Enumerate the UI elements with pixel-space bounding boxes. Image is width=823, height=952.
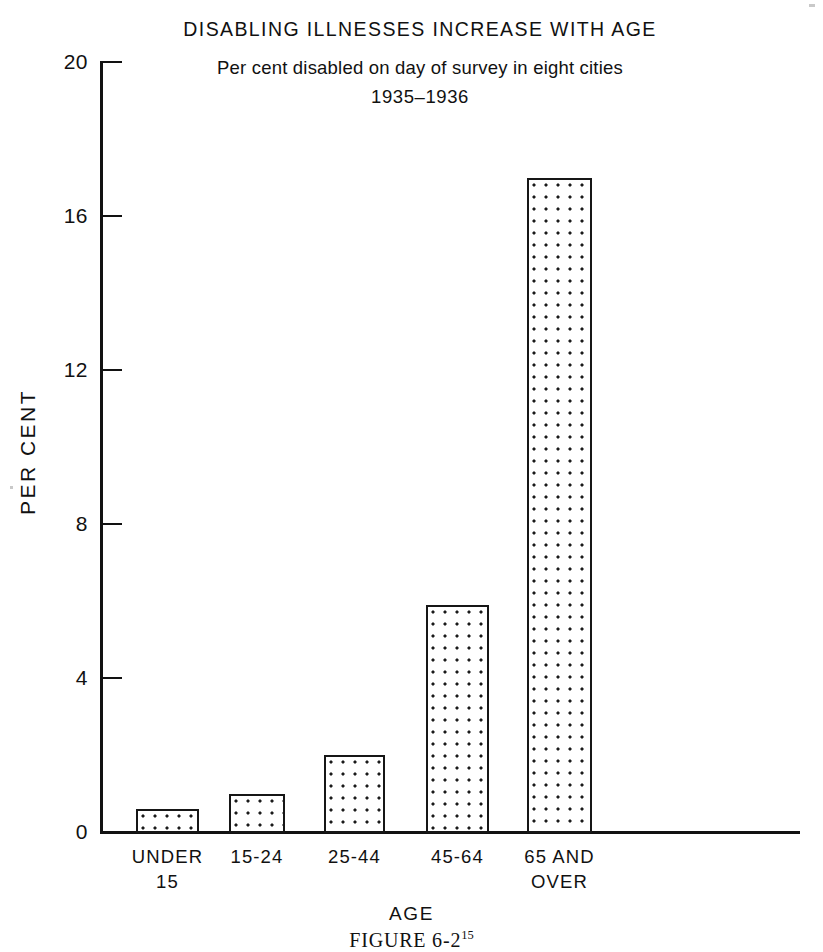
bar-under-15	[136, 809, 199, 833]
x-tick-label-65-and-over: 65 AND OVER	[480, 845, 640, 895]
bar-15-24	[229, 794, 285, 834]
figure-caption: FIGURE 6-215	[0, 928, 823, 952]
y-tick-8	[100, 523, 122, 526]
scan-speck-top-right	[809, 4, 815, 7]
plot-area: PER CENT 048121620 UNDER 1515-2425-4445-…	[0, 0, 823, 952]
y-tick-label-0: 0	[14, 821, 88, 842]
figure-container: DISABLING ILLNESSES INCREASE WITH AGE Pe…	[0, 0, 823, 952]
figure-caption-superscript: 15	[461, 928, 474, 942]
scan-speck-left	[10, 486, 13, 489]
bar-45-64	[426, 605, 489, 833]
bar-65-and-over	[527, 178, 592, 834]
y-tick-12	[100, 369, 122, 372]
y-tick-4	[100, 677, 122, 680]
y-tick-label-16: 16	[14, 205, 88, 226]
y-axis-line	[100, 62, 103, 834]
figure-caption-text: FIGURE 6-2	[349, 929, 461, 951]
y-tick-label-12: 12	[14, 359, 88, 380]
y-tick-16	[100, 215, 122, 218]
y-tick-label-20: 20	[14, 51, 88, 72]
y-tick-20	[100, 61, 122, 64]
x-axis-title: AGE	[0, 903, 823, 925]
y-tick-label-4: 4	[14, 667, 88, 688]
bar-25-44	[324, 755, 385, 833]
y-tick-label-8: 8	[14, 513, 88, 534]
